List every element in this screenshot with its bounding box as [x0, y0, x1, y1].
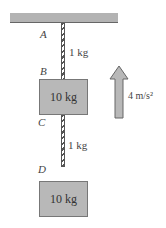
rope-cd-mass-label: 1 kg	[68, 139, 87, 151]
block-b: 10 kg	[39, 79, 88, 115]
rope-cd	[61, 115, 65, 167]
up-arrow-icon	[109, 65, 129, 119]
ceiling	[10, 13, 118, 23]
block-d: 10 kg	[39, 181, 88, 217]
rope-ab	[61, 23, 65, 79]
point-d-label: D	[38, 163, 46, 175]
rope-ab-mass-label: 1 kg	[69, 46, 88, 58]
acceleration-label: 4 m/s²	[128, 90, 153, 101]
block-d-mass-label: 10 kg	[50, 192, 77, 207]
point-a-label: A	[40, 28, 47, 40]
block-b-mass-label: 10 kg	[50, 90, 77, 105]
point-c-label: C	[38, 116, 45, 128]
point-b-label: B	[40, 65, 47, 77]
